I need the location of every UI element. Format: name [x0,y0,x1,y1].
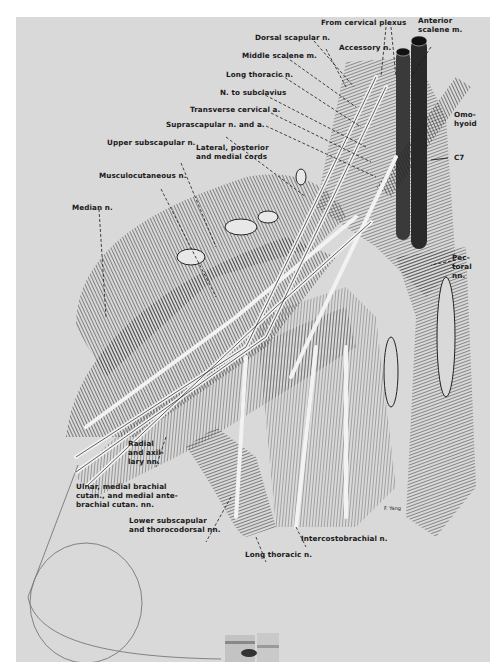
artist-signature: F. Yang [384,505,401,511]
label-cords: Lateral, posterior and medial cords [196,144,269,162]
label-musculocutaneous: Musculocutaneous n. [99,172,187,181]
label-long-thoracic-bottom: Long thoracic n. [245,551,312,560]
label-ulnar: Ulnar, medial brachial cutan., and media… [76,483,178,509]
label-from-cervical-plexus: From cervical plexus [321,19,406,28]
label-anterior-scalene: Anterior scalene m. [418,17,462,35]
label-c7: C7 [454,154,464,163]
label-dorsal-scapular: Dorsal scapular n. [255,34,330,43]
label-median: Median n. [72,204,113,213]
label-n-to-subclavius: N. to subclavius [220,89,286,98]
label-upper-subscapular: Upper subscapular n. [107,139,195,148]
label-radial-axillary: Radial and axil- lary nn. [128,440,164,466]
label-long-thoracic-top: Long thoracic n. [226,71,293,80]
label-intercostobrachial: Intercostobrachial n. [301,535,388,544]
label-pectoral: Pec- toral nn. [452,254,472,280]
label-transverse-cervical: Transverse cervical a. [190,106,280,115]
label-lower-subscapular: Lower subscapular and thorocodorsal nn. [129,517,221,535]
label-omohyoid: Omo- hyoid [454,111,477,129]
label-accessory: Accessory n. [339,44,391,53]
label-middle-scalene: Middle scalene m. [242,52,317,61]
illustration-page: From cervical plexus Anterior scalene m.… [16,17,490,662]
label-suprascapular: Suprascapular n. and a. [166,121,265,130]
catheter-hub [221,631,296,662]
